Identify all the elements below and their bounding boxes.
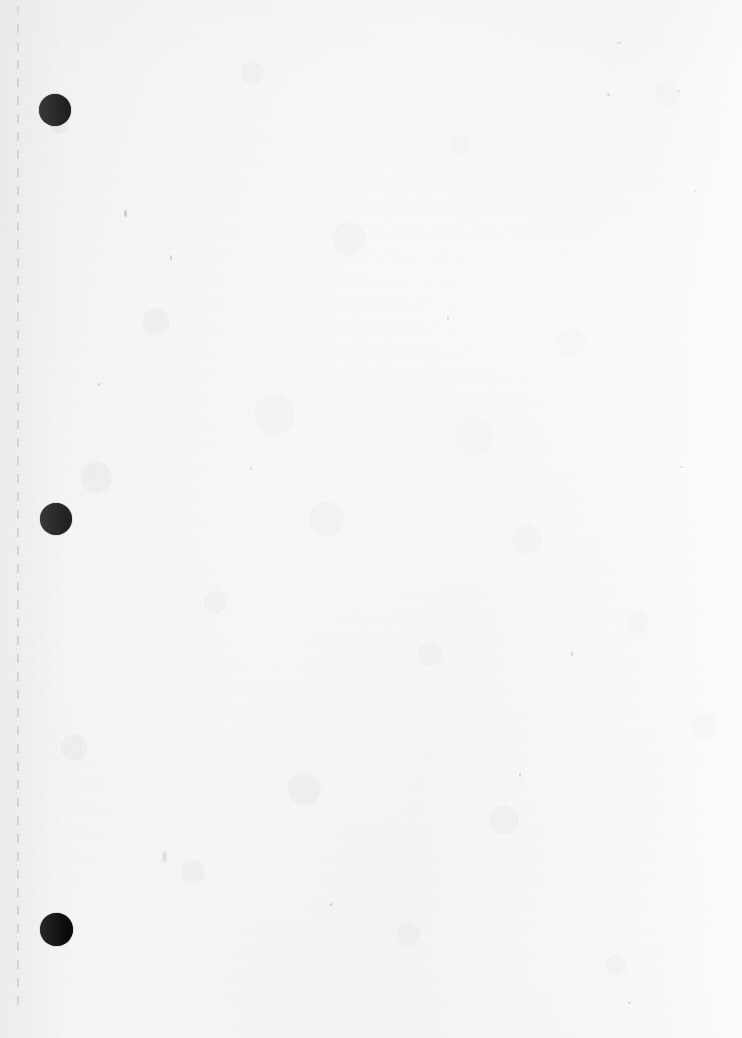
speck-mark-1 [124,210,127,217]
speck-mark-9 [170,255,172,260]
speck-mark-12 [250,467,252,470]
speck-mark-3 [571,651,573,657]
perforation-line [17,6,19,1014]
speck-mark-11 [519,773,521,777]
speck-mark-15 [628,1002,631,1004]
speck-mark-4 [607,93,610,96]
hole-punch-1 [39,94,71,126]
hole-punch-3 [40,913,73,946]
speck-mark-8 [680,466,683,468]
hole-punch-2 [40,503,72,535]
paper-fiber-texture [0,0,742,1038]
speck-mark-13 [98,383,100,386]
speck-mark-14 [330,903,332,906]
speck-mark-10 [447,316,449,320]
speck-mark-7 [694,190,696,192]
scanned-page [0,0,742,1038]
smudge-mark-2 [163,851,166,862]
speck-mark-5 [617,42,621,44]
speck-mark-6 [678,90,680,92]
